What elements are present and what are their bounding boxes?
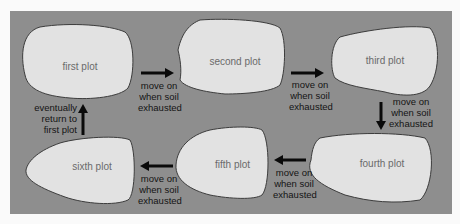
caption-second-to-third: move on when soil exhausted: [289, 79, 331, 112]
arrow-first-to-second: [141, 68, 174, 78]
fourth-plot-label: fourth plot: [350, 158, 414, 169]
arrow-second-to-third: [291, 68, 324, 78]
arrow-sixth-to-first: [78, 104, 88, 135]
caption-fourth-to-fifth: move on when soil exhausted: [273, 167, 315, 200]
arrow-fifth-to-sixth: [140, 161, 173, 171]
second-plot-label: second plot: [205, 56, 265, 67]
caption-fifth-to-sixth: move on when soil exhausted: [138, 173, 180, 206]
third-plot-label: third plot: [355, 55, 415, 66]
caption-third-to-fourth: move on when soil exhausted: [389, 96, 433, 129]
arrow-fourth-to-fifth: [274, 155, 306, 165]
sixth-plot-label: sixth plot: [67, 161, 117, 172]
caption-first-to-second: move on when soil exhausted: [138, 80, 180, 113]
arrow-third-to-fourth: [376, 102, 386, 130]
fifth-plot-label: fifth plot: [205, 159, 260, 170]
caption-sixth-to-first: eventually return to first plot: [33, 102, 77, 135]
first-plot-label: first plot: [55, 61, 105, 72]
